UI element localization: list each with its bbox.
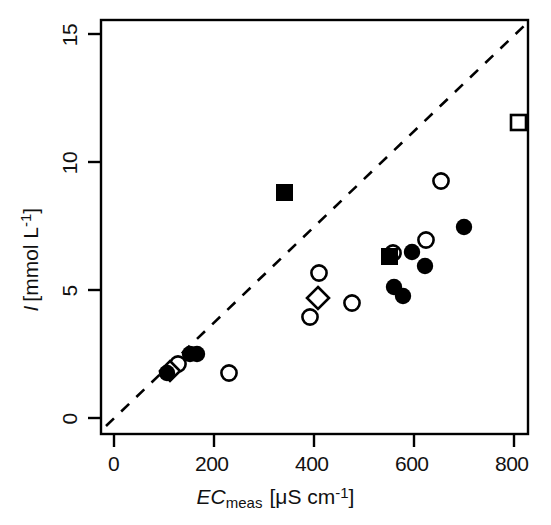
y-axis-title-bracket-open: [ <box>19 296 42 302</box>
marker-filled-square <box>382 249 397 264</box>
y-tick-label-15: 15 <box>58 15 82 55</box>
marker-filled-circle <box>404 244 420 260</box>
x-axis-ticks <box>114 434 514 447</box>
x-tick-label-0: 0 <box>108 452 119 476</box>
y-tick-label-0: 0 <box>58 407 82 431</box>
x-axis-title-exponent: -1 <box>335 484 348 501</box>
plot-canvas <box>0 0 551 525</box>
marker-open-square <box>511 115 526 130</box>
marker-open-diamond <box>307 287 329 309</box>
x-axis-title-bracket-close: ] <box>349 485 355 508</box>
marker-filled-square <box>277 185 292 200</box>
x-axis-title-symbol: EC <box>197 485 226 508</box>
marker-filled-circle <box>456 219 472 235</box>
marker-filled-circle <box>417 258 433 274</box>
y-tick-label-10: 10 <box>58 143 82 183</box>
y-tick-label-5: 5 <box>58 279 82 303</box>
marker-open-circle <box>302 309 317 324</box>
x-axis-title-subscript: meas <box>226 494 263 511</box>
data-markers <box>159 115 526 381</box>
y-axis-title-symbol: I <box>19 306 42 312</box>
x-axis-title: ECmeas[μS cm-1] <box>0 484 551 511</box>
marker-open-circle <box>433 173 448 188</box>
x-axis-title-mu: μ <box>275 485 287 508</box>
marker-open-circle <box>418 232 433 247</box>
y-axis-ticks <box>88 34 101 418</box>
marker-open-circle <box>344 295 359 310</box>
x-tick-label-200: 200 <box>195 452 229 476</box>
marker-open-circle <box>311 265 326 280</box>
marker-filled-circle <box>159 365 175 381</box>
scatter-plot-figure: 0 200 400 600 800 0 5 10 15 ECmeas[μS cm… <box>0 0 551 525</box>
x-tick-label-400: 400 <box>295 452 329 476</box>
x-tick-label-600: 600 <box>395 452 429 476</box>
y-axis-title-bracket-close: ] <box>19 208 42 214</box>
y-axis-title-exponent: -1 <box>17 214 34 227</box>
marker-filled-circle <box>395 288 411 304</box>
marker-open-circle <box>221 365 236 380</box>
y-axis-title-unit: mmol L <box>19 227 42 296</box>
y-axis-title: I[mmol L-1] <box>17 170 42 350</box>
x-axis-title-unit: S cm <box>287 485 335 508</box>
marker-filled-circle <box>189 346 205 362</box>
x-tick-label-800: 800 <box>495 452 529 476</box>
